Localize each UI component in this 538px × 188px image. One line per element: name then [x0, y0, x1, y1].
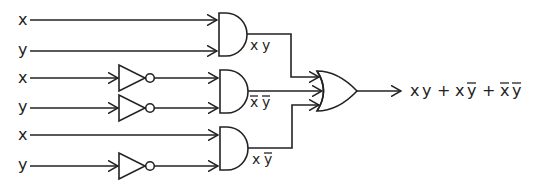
not-gate-3: [119, 153, 154, 179]
not-gate-2: [119, 95, 154, 121]
and-gate-1: [219, 13, 247, 56]
not-gate-1: [119, 65, 154, 91]
input-label-y3: y: [18, 155, 27, 174]
input-label-x3: x: [18, 125, 27, 144]
and-gate-2: [220, 70, 248, 113]
inversion-bubble-icon: [146, 162, 155, 171]
svg-text:y: y: [262, 37, 270, 53]
svg-text:x: x: [455, 81, 464, 100]
svg-text:+: +: [482, 81, 495, 100]
and1-output-label: x y: [250, 37, 270, 53]
output-expression: x y + x y + x y: [410, 81, 521, 100]
svg-text:x: x: [250, 37, 258, 53]
svg-text:y: y: [512, 81, 521, 100]
svg-text:y: y: [422, 81, 431, 100]
and2-output-label: x y: [250, 94, 270, 110]
input-label-y1: y: [18, 40, 27, 59]
input-label-x2: x: [18, 68, 27, 87]
wire-and3-to-or: [248, 105, 319, 148]
input-label-y2: y: [18, 97, 27, 116]
inversion-bubble-icon: [146, 74, 155, 83]
input-label-x1: x: [18, 10, 27, 29]
svg-text:x: x: [500, 81, 509, 100]
inversion-bubble-icon: [146, 104, 155, 113]
svg-text:y: y: [467, 81, 476, 100]
svg-text:+: +: [437, 81, 450, 100]
and-gate-3: [220, 127, 248, 170]
and3-output-label: x y: [252, 151, 272, 167]
svg-text:x: x: [410, 81, 419, 100]
svg-text:x: x: [252, 151, 260, 167]
logic-circuit-diagram: x y x y x y x y x y: [0, 0, 538, 188]
